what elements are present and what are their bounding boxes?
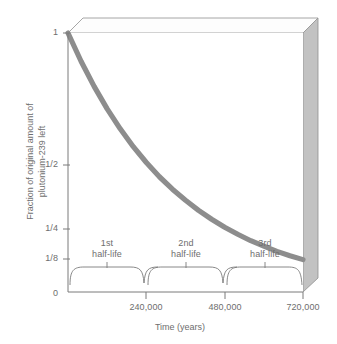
annotation-1st-line1: 1st	[77, 238, 137, 249]
annotation-2nd-line2: half-life	[156, 249, 216, 260]
x-tick-label-720000: 720,000	[268, 302, 337, 312]
y-tick-label-0: 0	[30, 288, 58, 298]
x-tick-label-240000: 240,000	[111, 302, 181, 312]
y-axis-title-line2: plutonium-239 left	[36, 77, 48, 247]
box-top-panel	[68, 18, 318, 33]
annotation-2nd-half-life: 2nd half-life	[156, 238, 216, 259]
y-axis-title-line1: Fraction of original amount of	[25, 77, 37, 247]
annotation-3rd-line2: half-life	[235, 249, 295, 260]
y-tick-label-1-8: 1/8	[30, 253, 58, 263]
x-axis-title: Time (years)	[110, 322, 250, 332]
y-axis-title: Fraction of original amount of plutonium…	[25, 77, 48, 247]
box-right-panel	[303, 18, 318, 292]
annotation-3rd-line1: 3rd	[235, 238, 295, 249]
annotation-2nd-line1: 2nd	[156, 238, 216, 249]
annotation-3rd-half-life: 3rd half-life	[235, 238, 295, 259]
x-tick-label-480000: 480,000	[190, 302, 260, 312]
annotation-1st-half-life: 1st half-life	[77, 238, 137, 259]
annotation-1st-line2: half-life	[77, 249, 137, 260]
chart-figure: 1 1/2 1/4 1/8 0 240,000 480,000 720,000 …	[0, 0, 337, 344]
y-tick-label-1: 1	[30, 27, 58, 37]
